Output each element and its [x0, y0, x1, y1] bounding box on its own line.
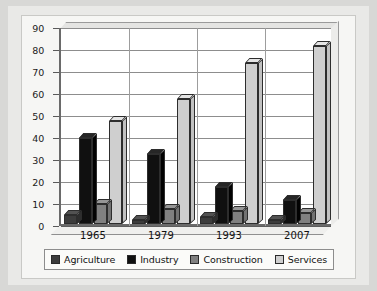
- legend-label-construction: Construction: [203, 254, 262, 265]
- y-axis-tick-mark: [53, 116, 59, 117]
- y-axis-tick-mark: [53, 72, 59, 73]
- y-axis-tick-label: 90: [18, 23, 44, 34]
- y-axis-tick-mark: [53, 226, 59, 227]
- legend-swatch-industry: [127, 255, 136, 264]
- bar-side-face: [190, 94, 195, 224]
- bar-agriculture-2007: [268, 220, 281, 224]
- y-axis-tick-mark: [53, 94, 59, 95]
- y-axis-tick-label: 10: [18, 199, 44, 210]
- legend-swatch-agriculture: [51, 255, 60, 264]
- bar-front-face: [245, 63, 258, 224]
- bar-group: [197, 26, 265, 224]
- x-axis-tick-label: 1979: [131, 230, 191, 241]
- bar-side-face: [296, 195, 301, 224]
- bar-front-face: [268, 220, 281, 224]
- bar-industry-1979: [147, 154, 160, 224]
- bar-services-1993: [245, 63, 258, 224]
- bar-side-face: [326, 41, 331, 224]
- bar-group: [265, 26, 333, 224]
- bar-agriculture-1979: [132, 220, 145, 224]
- bar-group: [61, 26, 129, 224]
- y-axis-tick-mark: [53, 160, 59, 161]
- bar-front-face: [313, 46, 326, 224]
- y-axis-tick-label: 70: [18, 67, 44, 78]
- legend-item-construction: Construction: [190, 254, 262, 265]
- bar-agriculture-1965: [64, 215, 77, 224]
- bar-group: [129, 26, 197, 224]
- x-axis-tick-label: 1993: [199, 230, 259, 241]
- x-axis-tick-label: 1965: [63, 230, 123, 241]
- y-axis-tick-mark: [53, 204, 59, 205]
- page-background: 0102030405060708090 1965197919932007 Agr…: [8, 6, 369, 285]
- bar-front-face: [200, 217, 213, 224]
- legend-swatch-services: [275, 255, 284, 264]
- bar-front-face: [64, 215, 77, 224]
- plot-area: [59, 28, 331, 226]
- y-axis-tick-label: 80: [18, 45, 44, 56]
- y-axis-tick-mark: [53, 50, 59, 51]
- y-axis-tick-label: 50: [18, 111, 44, 122]
- bar-side-face: [122, 116, 127, 224]
- y-axis-tick-label: 0: [18, 221, 44, 232]
- legend-label-services: Services: [288, 254, 327, 265]
- legend-label-industry: Industry: [140, 254, 178, 265]
- bar-front-face: [147, 154, 160, 224]
- bar-side-face: [92, 134, 97, 224]
- plot-area-wrapper: 0102030405060708090 1965197919932007: [22, 16, 355, 241]
- bar-side-face: [228, 182, 233, 224]
- legend-item-services: Services: [275, 254, 327, 265]
- chart-legend: Agriculture Industry Construction Servic…: [44, 249, 334, 270]
- y-axis-tick-label: 60: [18, 89, 44, 100]
- bar-services-2007: [313, 46, 326, 224]
- bar-front-face: [132, 220, 145, 224]
- legend-swatch-construction: [190, 255, 199, 264]
- y-axis-tick-label: 20: [18, 177, 44, 188]
- y-axis-tick-mark: [53, 28, 59, 29]
- legend-item-industry: Industry: [127, 254, 178, 265]
- y-axis-tick-label: 40: [18, 133, 44, 144]
- chart-screenshot: 0102030405060708090 1965197919932007 Agr…: [0, 0, 377, 291]
- bar-side-face: [160, 149, 165, 224]
- y-axis-tick-mark: [53, 138, 59, 139]
- gridline: [61, 226, 331, 227]
- bar-side-face: [258, 59, 263, 224]
- bar-agriculture-1993: [200, 217, 213, 224]
- legend-item-agriculture: Agriculture: [51, 254, 115, 265]
- legend-label-agriculture: Agriculture: [64, 254, 115, 265]
- chart-card: 0102030405060708090 1965197919932007 Agr…: [22, 16, 355, 278]
- y-axis-tick-label: 30: [18, 155, 44, 166]
- y-axis-tick-mark: [53, 182, 59, 183]
- x-axis-tick-label: 2007: [267, 230, 327, 241]
